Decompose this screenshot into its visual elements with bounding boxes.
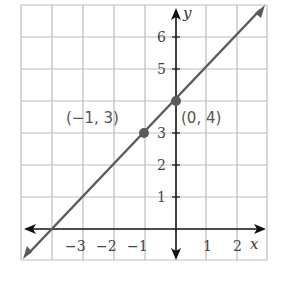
point-label-a: (−1, 3)	[66, 111, 119, 126]
point-0-4	[171, 96, 181, 106]
y-tick-2: 2	[157, 158, 166, 172]
line-arrow-top-icon	[255, 5, 265, 18]
point-neg1-3	[139, 128, 149, 138]
point-label-b: (0, 4)	[181, 111, 221, 126]
x-tick-neg2: −2	[96, 239, 117, 253]
x-axis-label: x	[250, 237, 258, 252]
y-tick-6: 6	[157, 30, 166, 44]
x-tick-neg1: −1	[127, 239, 148, 253]
x-tick-2: 2	[233, 239, 242, 253]
x-tick-neg3: −3	[65, 239, 86, 253]
y-tick-1: 1	[157, 190, 166, 204]
y-tick-5: 5	[157, 62, 166, 76]
line-arrow-bottom-icon	[23, 246, 32, 259]
y-tick-3: 3	[157, 126, 166, 140]
x-tick-1: 1	[203, 239, 212, 253]
y-axis-label: y	[183, 6, 191, 21]
